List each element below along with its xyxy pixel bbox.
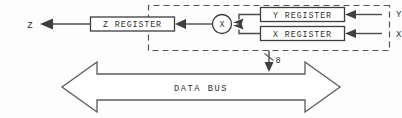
diagram-canvas: Y X Y REGISTER X REGISTER <box>0 0 402 118</box>
port-label-z: Z <box>27 21 33 31</box>
arrowhead-y-to-multiplier <box>233 19 244 25</box>
x-register-label: X REGISTER <box>273 30 332 39</box>
z-register-label: Z REGISTER <box>103 20 162 29</box>
port-label-x: X <box>396 30 402 40</box>
y-register-block: Y REGISTER <box>261 8 345 22</box>
multiplier-symbol: X <box>219 20 224 30</box>
data-bus: DATA BUS <box>62 62 340 112</box>
wire-y-to-multiplier <box>239 15 261 20</box>
arrowhead-x-to-multiplier <box>233 24 244 30</box>
wire-x-to-multiplier <box>239 30 261 34</box>
x-register-block: X REGISTER <box>261 27 345 41</box>
bus-width-label: 8 <box>275 56 280 66</box>
arrowhead-bus-link <box>265 62 274 72</box>
data-bus-label: DATA BUS <box>174 84 228 94</box>
z-register-block: Z REGISTER <box>91 17 175 31</box>
arrowhead-input-y <box>345 10 356 19</box>
arrowhead-multiplier-to-z <box>175 19 186 29</box>
mirrored-artwork-layer: Y X Y REGISTER X REGISTER <box>0 0 402 118</box>
port-label-y: Y <box>396 10 402 20</box>
y-register-label: Y REGISTER <box>273 11 332 20</box>
multiplier-block-diagram: Y X Y REGISTER X REGISTER <box>0 0 402 118</box>
multiplier-node: X <box>213 15 232 34</box>
arrowhead-input-x <box>345 29 356 38</box>
arrowhead-output-z <box>40 19 53 30</box>
